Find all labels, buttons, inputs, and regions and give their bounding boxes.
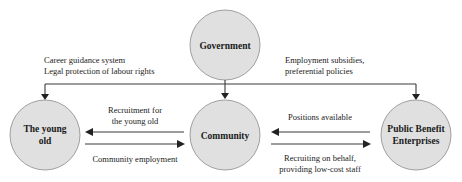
edge-community-to-young-old-arrowhead	[85, 128, 93, 136]
label-community-to-young-old-line-1: Recruitment for	[108, 105, 162, 115]
node-pbe-label-line-2: Enterprises	[393, 136, 440, 146]
node-pbe: Public Benefit Enterprises	[381, 100, 451, 170]
node-young-old: The young old	[10, 100, 80, 170]
edge-community-to-young-old	[85, 128, 184, 136]
label-community-to-young-old-line-2: the young old	[112, 116, 159, 126]
label-gov-to-young-old: Career guidance system Legal protection …	[44, 55, 154, 76]
label-gov-to-pbe-line-2: preferential policies	[285, 66, 353, 76]
arrowhead-to-community	[221, 93, 229, 99]
label-gov-to-pbe-line-1: Employment subsidies,	[285, 55, 364, 65]
diagram-canvas: Government Career guidance system Legal …	[0, 0, 462, 182]
node-government: Government	[190, 10, 260, 80]
arrowhead-to-pbe	[412, 94, 420, 100]
node-young-old-label-line-2: old	[39, 136, 52, 146]
label-gov-to-young-old-line-1: Career guidance system	[44, 55, 126, 65]
edge-community-to-pbe-arrowhead	[363, 140, 371, 148]
label-young-old-to-community: Community employment	[92, 154, 178, 164]
node-young-old-circle	[10, 100, 80, 170]
edge-community-to-pbe	[271, 140, 371, 148]
label-gov-to-pbe: Employment subsidies, preferential polic…	[285, 55, 364, 76]
node-pbe-label-line-1: Public Benefit	[387, 124, 445, 134]
label-pbe-to-community: Positions available	[288, 112, 352, 122]
node-community-label: Community	[201, 131, 250, 141]
edge-pbe-to-community	[271, 128, 370, 136]
node-community: Community	[190, 100, 260, 170]
edge-young-old-to-community-arrowhead	[177, 140, 185, 148]
label-community-to-pbe-line-1: Recruiting on behalf,	[284, 153, 356, 163]
node-government-label: Government	[199, 41, 251, 51]
node-pbe-circle	[381, 100, 451, 170]
edge-pbe-to-community-arrowhead	[271, 128, 279, 136]
label-community-to-pbe-line-2: providing low-cost staff	[279, 164, 361, 174]
arrowhead-to-young-old	[41, 94, 49, 100]
edge-young-old-to-community	[85, 140, 185, 148]
label-gov-to-young-old-line-2: Legal protection of labour rights	[44, 66, 154, 76]
node-young-old-label-line-1: The young	[23, 124, 66, 134]
